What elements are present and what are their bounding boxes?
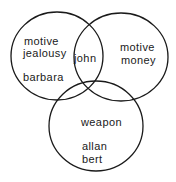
member-barbara: barbara bbox=[23, 71, 64, 83]
jealousy-title-line2: jealousy bbox=[22, 47, 67, 59]
money-title-line2: money bbox=[121, 54, 156, 66]
jealousy-title-line1: motive bbox=[24, 35, 59, 47]
member-john: john bbox=[73, 52, 96, 64]
venn-diagram: motive jealousy barbara john motive mone… bbox=[0, 0, 176, 182]
weapon-title: weapon bbox=[80, 116, 122, 128]
member-allan: allan bbox=[82, 140, 107, 152]
money-title-line1: motive bbox=[120, 41, 155, 53]
member-bert: bert bbox=[82, 153, 103, 165]
